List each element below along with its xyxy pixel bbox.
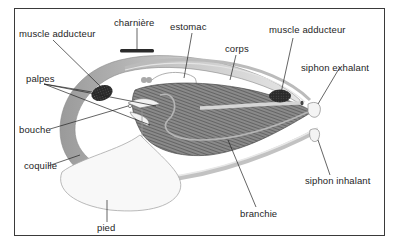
mouth — [128, 104, 131, 107]
exhalant-siphon — [308, 102, 320, 117]
inhalant-siphon — [310, 129, 320, 142]
label-pied: pied — [97, 222, 115, 233]
label-corps: corps — [225, 43, 249, 54]
label-coquille: coquille — [24, 160, 57, 171]
posterior-adductor-muscle — [269, 90, 291, 103]
label-branchie: branchie — [240, 208, 277, 219]
label-estomac: estomac — [170, 21, 207, 32]
label-siphon-exhalant: siphon exhalant — [301, 62, 369, 73]
hinge — [120, 49, 154, 53]
label-charniere: charnière — [114, 17, 155, 28]
label-siphon-inhalant: siphon inhalant — [305, 175, 370, 186]
label-muscle-adducteur-anterior: muscle adducteur — [19, 28, 96, 39]
label-palpes: palpes — [26, 73, 55, 84]
bivalve-diagram: charnière muscle adducteur estomac corps… — [0, 0, 411, 251]
label-muscle-adducteur-posterior: muscle adducteur — [269, 24, 346, 35]
label-bouche: bouche — [19, 124, 51, 135]
